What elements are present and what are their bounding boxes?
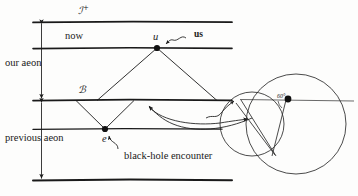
light-cone-from-e <box>76 101 134 130</box>
our-aeon-label: our aeon <box>5 58 41 69</box>
us-label: us <box>194 30 203 40</box>
cone-e-left-ray <box>76 101 105 130</box>
now-label: now <box>65 31 83 42</box>
figure-canvas: ℐ+ now us u our aeon ℬ previous aeon e b… <box>0 0 358 196</box>
inset-pointer-squiggle-arrow <box>206 101 234 118</box>
crossover-surface-label: ℬ <box>78 85 86 95</box>
cone-e-right-ray <box>105 101 134 130</box>
scri-plus-superscript: + <box>83 4 89 12</box>
previous-aeon-label: previous aeon <box>5 133 64 144</box>
light-cone-from-u <box>97 48 217 101</box>
event-point-u <box>154 45 160 51</box>
inset-circle-detail <box>220 74 354 174</box>
cone-u-left-ray <box>97 48 157 101</box>
diagram-vector-layer <box>0 0 358 196</box>
crossover-detail-arrow-right <box>149 107 248 124</box>
scri-plus-label: ℐ+ <box>78 5 89 16</box>
now-line <box>33 48 232 49</box>
angle-sixty-label: 60° <box>277 93 285 99</box>
e-label-squiggle-arrow <box>109 136 118 149</box>
inset-chord-a <box>236 103 275 155</box>
event-point-e <box>102 126 108 132</box>
black-hole-encounter-label: black-hole encounter <box>124 151 212 162</box>
e-point-label: e <box>102 134 107 145</box>
u-point-label: u <box>153 32 158 43</box>
inset-large-circle <box>246 74 346 174</box>
cone-u-right-ray <box>157 48 217 101</box>
scri-plus-line <box>33 22 232 23</box>
inset-axis-line <box>240 100 354 102</box>
us-squiggle-arrow <box>166 37 186 44</box>
crossover-detail-arrow-left <box>149 106 252 129</box>
crossover-line <box>33 100 232 101</box>
inset-event-dot <box>285 96 292 103</box>
bottom-line <box>33 179 232 180</box>
